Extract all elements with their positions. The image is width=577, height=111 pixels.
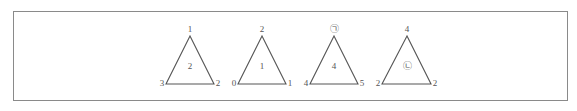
triangle-1-shape <box>166 36 214 84</box>
triangle-1-top-label: 1 <box>188 24 193 34</box>
triangle-3-center-label: 4 <box>332 61 337 71</box>
triangle-1-bottom-left-label: 3 <box>160 78 165 88</box>
triangle-3-top-label: ㉠ <box>330 24 339 34</box>
triangle-2-center-label: 1 <box>260 61 265 71</box>
triangle-3-shape <box>310 36 358 84</box>
triangle-4-center-label: ㉡ <box>403 61 412 71</box>
triangle-4-bottom-right-label: 2 <box>433 78 438 88</box>
triangles-figure: 1 3 2 2 2 0 1 1 ㉠ 4 5 4 4 2 2 ㉡ <box>0 0 577 111</box>
triangle-2-top-label: 2 <box>260 24 265 34</box>
triangle-2-bottom-left-label: 0 <box>232 78 237 88</box>
triangle-2-bottom-right-label: 1 <box>288 78 293 88</box>
triangle-1-center-label: 2 <box>188 61 193 71</box>
triangle-1-bottom-right-label: 2 <box>216 78 221 88</box>
triangle-3: ㉠ 4 5 4 <box>304 24 365 88</box>
triangle-3-bottom-left-label: 4 <box>304 78 309 88</box>
triangle-2: 2 0 1 1 <box>232 24 293 88</box>
triangle-2-shape <box>238 36 286 84</box>
triangle-4: 4 2 2 ㉡ <box>376 24 438 88</box>
triangle-4-bottom-left-label: 2 <box>376 78 381 88</box>
triangle-1: 1 3 2 2 <box>160 24 221 88</box>
triangle-4-top-label: 4 <box>405 24 410 34</box>
triangle-3-bottom-right-label: 5 <box>360 78 365 88</box>
triangle-4-shape <box>382 36 431 84</box>
